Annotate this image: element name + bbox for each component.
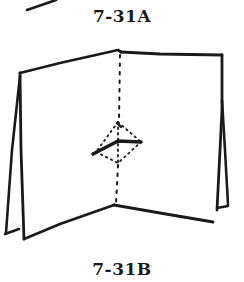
right-panel-front-edge — [217, 55, 222, 210]
folded-screen-drawing — [0, 0, 244, 282]
pyramid-apex-mark — [117, 123, 121, 127]
right-panel-foot — [217, 206, 228, 208]
right-panel-top-edge — [121, 52, 222, 55]
right-panel-back-leg — [222, 100, 228, 205]
left-panel-bottom-edge — [24, 205, 114, 239]
figure-label-a: 7-31A — [0, 6, 244, 26]
pyramid-solid-edge — [93, 141, 141, 154]
figure-label-b: 7-31B — [0, 259, 244, 279]
left-panel-back-leg — [6, 76, 20, 233]
left-panel-front-edge — [20, 73, 24, 239]
left-panel-top-edge — [20, 50, 121, 73]
right-panel-bottom-edge — [114, 205, 213, 222]
